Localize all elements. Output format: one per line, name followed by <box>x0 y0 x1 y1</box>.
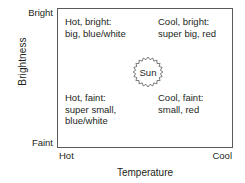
y-axis-label-faint: Faint <box>11 137 53 148</box>
x-axis-title: Temperature <box>57 167 233 178</box>
y-axis-title: Brightness <box>17 2 28 122</box>
quadrant-cool-faint: Cool, faint: small, red <box>158 92 238 115</box>
hr-diagram-figure: Brightness Bright Faint Hot Cool Tempera… <box>0 0 245 183</box>
sun-label: Sun <box>130 56 166 88</box>
quadrant-cool-bright: Cool, bright: super big, red <box>158 16 238 39</box>
sun-data-point: Sun <box>130 56 166 88</box>
x-axis-label-cool: Cool <box>177 150 232 161</box>
plot-area: Hot, bright: big, blue/white Cool, brigh… <box>57 8 233 148</box>
x-axis-label-hot: Hot <box>59 150 74 161</box>
y-axis-label-bright: Bright <box>11 7 53 18</box>
quadrant-hot-faint: Hot, faint: super small, blue/white <box>65 92 161 127</box>
quadrant-hot-bright: Hot, bright: big, blue/white <box>65 16 161 39</box>
